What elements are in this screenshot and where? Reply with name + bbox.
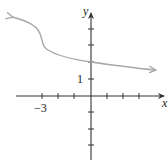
- coordinate-plane: y x −3 1: [0, 0, 168, 168]
- function-curve: [12, 17, 155, 70]
- x-tick-label-minus3: −3: [34, 101, 47, 115]
- y-tick-label-1: 1: [77, 72, 83, 86]
- x-axis-label: x: [161, 96, 168, 110]
- y-axis-label: y: [82, 4, 89, 18]
